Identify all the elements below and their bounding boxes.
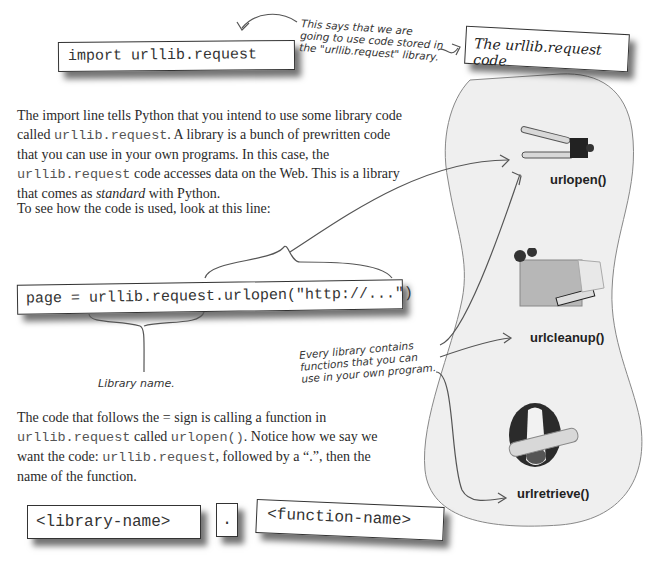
annotation-arrows xyxy=(0,0,653,569)
functions-note-arrow-1 xyxy=(440,175,520,345)
panel-title-arrow xyxy=(438,48,458,53)
functions-note-arrow-2 xyxy=(440,338,510,357)
function-brace xyxy=(205,246,392,278)
library-brace xyxy=(89,312,204,372)
urlopen-arrow xyxy=(290,160,508,252)
functions-note-arrow-3 xyxy=(436,372,505,500)
import-note-arrow xyxy=(242,14,297,28)
